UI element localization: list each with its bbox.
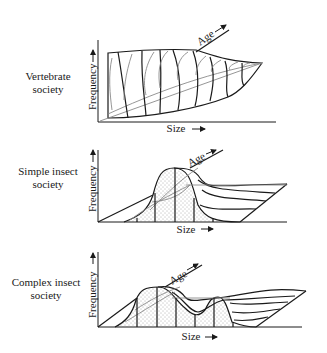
panel-1-section-grey — [124, 54, 132, 100]
panel-3-x-axis-label: Size — [182, 330, 201, 342]
panel-2-age-arrow-icon — [206, 150, 216, 154]
panel-2-y-axis-label: Frequency — [86, 165, 98, 212]
age-size-frequency-diagram: Frequency Size Age — [0, 0, 327, 353]
panel-1-section — [118, 52, 128, 118]
panel-1-age-arrow-icon — [215, 25, 226, 32]
panel-1-vertebrate-chart: Frequency Size Age — [86, 25, 276, 134]
panel-2-simple-insect-chart: Frequency Size Age — [86, 150, 287, 235]
panel-1-age-label: Age — [194, 27, 216, 47]
panel-1-section — [173, 50, 180, 110]
panel-3-complex-insect-chart: Frequency Size Age — [86, 252, 306, 342]
panel-1-section-grey — [144, 52, 154, 95]
panel-3-back-curve — [230, 302, 288, 304]
panel-1-section — [193, 51, 198, 106]
panel-2-right-edge — [240, 184, 287, 222]
panel-3-age-label: Age — [167, 267, 189, 287]
panel-3-back-curve — [234, 317, 268, 321]
panel-1-section — [225, 61, 228, 97]
panel-2-x-axis-label: Size — [177, 223, 196, 235]
panel-1-section-grey — [110, 58, 112, 110]
panel-3-front-distribution-fill — [115, 287, 235, 327]
panel-3-y-axis-label: Frequency — [86, 271, 98, 318]
panel-3-back-curve — [232, 309, 280, 313]
panel-1-y-axis-label: Frequency — [86, 63, 98, 110]
panel-1-section — [160, 50, 161, 113]
panel-3-age-arrow-icon — [187, 264, 198, 270]
panel-2-back-curve — [200, 205, 256, 209]
panel-1-section — [210, 57, 213, 101]
panel-2-age-label: Age — [185, 150, 207, 169]
panel-2-back-curve — [198, 180, 275, 193]
panel-1-peak-guide — [108, 63, 262, 114]
panel-1-x-axis-label: Size — [167, 122, 186, 134]
